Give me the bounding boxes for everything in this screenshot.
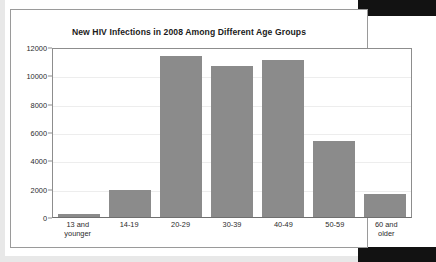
y-tick-label: 6000	[31, 129, 47, 138]
chart-card: New HIV Infections in 2008 Among Differe…	[10, 9, 368, 248]
x-tick-label-line: 40-49	[258, 220, 309, 229]
y-axis: 020004000600080001000012000	[11, 48, 52, 218]
x-tick-label: 40-49	[258, 220, 309, 248]
scan-edge-left	[0, 0, 5, 262]
chart-card-inner: New HIV Infections in 2008 Among Differe…	[11, 10, 367, 247]
x-axis: 13 andyounger14-1920-2930-3940-4950-5960…	[52, 220, 412, 248]
x-tick-label-line: 50-59	[309, 220, 360, 229]
scan-edge-bottom	[0, 256, 360, 262]
x-tick-label: 50-59	[309, 220, 360, 248]
page-artifact-bottom-right	[358, 247, 436, 262]
y-tick-label: 2000	[31, 185, 47, 194]
x-tick-label: 30-39	[206, 220, 257, 248]
bar[interactable]	[313, 141, 355, 217]
x-tick-label-line: 20-29	[155, 220, 206, 229]
bar-slot	[155, 49, 206, 217]
bar-slot	[258, 49, 309, 217]
bar-slot	[53, 49, 104, 217]
x-tick-label-line: 30-39	[206, 220, 257, 229]
bar-slot	[206, 49, 257, 217]
y-tick-label: 12000	[26, 44, 47, 53]
chart-title: New HIV Infections in 2008 Among Differe…	[11, 27, 367, 37]
x-tick-label: 20-29	[155, 220, 206, 248]
bar-slot	[104, 49, 155, 217]
bar[interactable]	[109, 190, 151, 217]
page-artifact-top-right	[358, 0, 436, 16]
bar[interactable]	[58, 214, 100, 217]
x-tick-label: 13 andyounger	[52, 220, 103, 248]
bar-series	[53, 49, 411, 217]
screenshot-root: New HIV Infections in 2008 Among Differe…	[0, 0, 436, 262]
plot-area	[52, 48, 412, 218]
x-tick-label-line: younger	[52, 229, 103, 238]
bar[interactable]	[262, 60, 304, 217]
x-tick-label: 60 andolder	[361, 220, 412, 248]
bar[interactable]	[364, 194, 406, 217]
y-tick-label: 0	[43, 214, 47, 223]
x-tick-label-line: 13 and	[52, 220, 103, 229]
x-tick-label-line: older	[361, 229, 412, 238]
y-tick-label: 10000	[26, 72, 47, 81]
bar[interactable]	[211, 66, 253, 217]
x-tick-label-line: 14-19	[103, 220, 154, 229]
x-tick-label: 14-19	[103, 220, 154, 248]
bar[interactable]	[160, 56, 202, 218]
y-tick-label: 4000	[31, 157, 47, 166]
y-tick-label: 8000	[31, 100, 47, 109]
bar-slot	[360, 49, 411, 217]
x-tick-label-line: 60 and	[361, 220, 412, 229]
bar-slot	[309, 49, 360, 217]
